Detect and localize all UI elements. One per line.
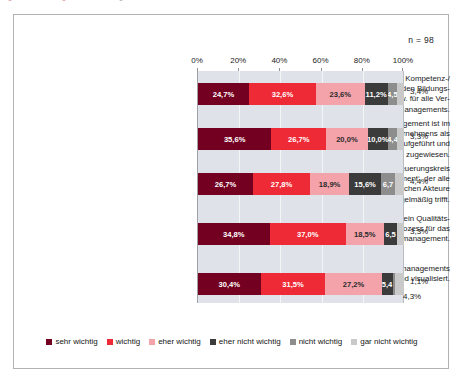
bar-segment-sehr-wichtig[interactable]: 35,6% [198, 128, 271, 150]
legend-label: gar nicht wichtig [360, 337, 417, 346]
bar-segment-sehr-wichtig[interactable]: 24,7% [198, 83, 249, 105]
x-tick-label-80: 80% [354, 56, 370, 65]
legend-label: wichtig [116, 337, 140, 346]
bar-segment-wichtig[interactable]: 26,7% [271, 128, 326, 150]
legend-label: sehr wichtig [55, 337, 97, 346]
legend-swatch-icon [46, 339, 52, 345]
legend-item-nicht-wichtig[interactable]: nicht wichtig [290, 337, 343, 346]
legend-item-sehr-wichtig[interactable]: sehr wichtig [46, 337, 97, 346]
outside-value-label-3: 4,4% [410, 177, 428, 186]
legend-swatch-icon [149, 339, 155, 345]
legend-item-gar-nicht-wichtig[interactable]: gar nicht wichtig [351, 337, 417, 346]
legend-item-eher-wichtig[interactable]: eher wichtig [149, 337, 201, 346]
outside-value-label-5b: 4,3% [403, 292, 421, 301]
bar-segment-nicht-wichtig[interactable]: 4,5 [388, 83, 397, 105]
legend-label: eher nicht wichtig [219, 337, 281, 346]
legend-swatch-icon [210, 339, 216, 345]
chart-legend: sehr wichtig wichtig eher wichtig eher n… [14, 337, 450, 346]
bar-row-1: 24,7% 32,6% 23,6% 11,2% 4,5 [198, 83, 404, 105]
bar-segment-eher-nicht-wichtig[interactable]: 10,0% [368, 128, 389, 150]
bar-segment-eher-nicht-wichtig[interactable]: 5,4 [382, 273, 393, 295]
bar-segment-sehr-wichtig[interactable]: 26,7% [198, 173, 253, 195]
legend-swatch-icon [290, 339, 296, 345]
outside-value-label-2: 3,3% [410, 132, 428, 141]
bar-row-4: 34,8% 37,0% 18,5% 6,5 [198, 223, 404, 245]
chart-figure-frame: n = 98 0% 20% 40% 60% 80% 100% Es existi… [13, 14, 449, 369]
bar-segment-eher-wichtig[interactable]: 27,2% [325, 273, 381, 295]
x-tick-label-40: 40% [271, 56, 287, 65]
bar-segment-eher-wichtig[interactable]: 18,5% [346, 223, 384, 245]
bar-segment-nicht-wichtig[interactable]: 6,7 [381, 173, 395, 195]
x-axis-ticks: 0% 20% 40% 60% 80% 100% [197, 56, 403, 68]
bar-segment-wichtig[interactable]: 37,0% [270, 223, 346, 245]
stacked-bar-2: 35,6% 26,7% 20,0% 10,0% 4,4 [198, 128, 404, 150]
stacked-bar-chart: 0% 20% 40% 60% 80% 100% Es existiert ein… [14, 15, 450, 370]
bar-segment-eher-nicht-wichtig[interactable]: 15,6% [349, 173, 381, 195]
bar-segment-wichtig[interactable]: 31,5% [261, 273, 326, 295]
legend-swatch-icon [351, 339, 357, 345]
legend-item-wichtig[interactable]: wichtig [107, 337, 140, 346]
bar-segment-sehr-wichtig[interactable]: 34,8% [198, 223, 270, 245]
bar-segment-sehr-wichtig[interactable]: 30,4% [198, 273, 261, 295]
bar-segment-gar-nicht-wichtig[interactable] [397, 128, 404, 150]
stacked-bar-5: 30,4% 31,5% 27,2% 5,4 [198, 273, 404, 295]
x-tick-label-0: 0% [191, 56, 203, 65]
legend-label: eher wichtig [158, 337, 201, 346]
bar-segment-wichtig[interactable]: 32,6% [249, 83, 316, 105]
outside-value-label-4: 3,3% [410, 227, 428, 236]
bar-segment-gar-nicht-wichtig[interactable] [397, 223, 404, 245]
plot-area: 24,7% 32,6% 23,6% 11,2% 4,5 35,6% 26,7% … [197, 71, 404, 303]
x-tick-label-20: 20% [230, 56, 246, 65]
x-tick-label-60: 60% [313, 56, 329, 65]
legend-label: nicht wichtig [299, 337, 343, 346]
bar-segment-eher-nicht-wichtig[interactable]: 11,2% [365, 83, 388, 105]
x-tick-label-100: 100% [393, 56, 413, 65]
bar-segment-gar-nicht-wichtig[interactable] [397, 83, 404, 105]
bar-segment-eher-wichtig[interactable]: 23,6% [316, 83, 365, 105]
bar-segment-wichtig[interactable]: 27,8% [253, 173, 310, 195]
bar-segment-eher-nicht-wichtig[interactable]: 6,5 [384, 223, 397, 245]
bar-segment-eher-wichtig[interactable]: 18,9% [310, 173, 349, 195]
cropped-text-fragment-line: ▮ ▮ ▮ [8, 0, 124, 2]
bar-row-2: 35,6% 26,7% 20,0% 10,0% 4,4 [198, 128, 404, 150]
stacked-bar-3: 26,7% 27,8% 18,9% 15,6% 6,7 [198, 173, 404, 195]
bar-segment-eher-wichtig[interactable]: 20,0% [326, 128, 367, 150]
outside-value-label-5: 1,1% [410, 277, 428, 286]
outside-value-label-1: 3,4% [410, 87, 428, 96]
legend-item-eher-nicht-wichtig[interactable]: eher nicht wichtig [210, 337, 281, 346]
bar-segment-gar-nicht-wichtig[interactable] [395, 173, 404, 195]
bar-segment-nicht-wichtig[interactable]: 4,4 [388, 128, 397, 150]
bar-row-3: 26,7% 27,8% 18,9% 15,6% 6,7 [198, 173, 404, 195]
bar-row-5: 30,4% 31,5% 27,2% 5,4 [198, 273, 404, 295]
stacked-bar-1: 24,7% 32,6% 23,6% 11,2% 4,5 [198, 83, 404, 105]
cropped-text-fragment: ▮ ▮ ▮ [0, 0, 462, 7]
legend-swatch-icon [107, 339, 113, 345]
stacked-bar-4: 34,8% 37,0% 18,5% 6,5 [198, 223, 404, 245]
